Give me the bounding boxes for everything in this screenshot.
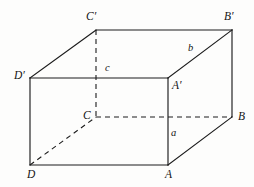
edge-dprime-cprime: [30, 30, 96, 78]
vertex-label-a: A: [165, 169, 172, 181]
vertex-label-a-prime: A′: [172, 80, 182, 92]
geometry-figure: C′ B′ D′ A′ C B D A a b c: [0, 0, 254, 187]
vertex-label-b: B: [238, 111, 245, 123]
cuboid-drawing: [0, 0, 254, 187]
edge-label-a: a: [171, 128, 176, 139]
edge-a-b: [168, 117, 232, 165]
edge-label-c: c: [105, 63, 110, 74]
edge-label-b: b: [188, 43, 193, 54]
hidden-edge-d-c: [30, 117, 96, 165]
edge-aprime-bprime: [168, 30, 232, 78]
vertex-label-c: C: [83, 110, 91, 122]
vertex-label-d: D: [27, 169, 35, 181]
vertex-label-c-prime: C′: [86, 11, 96, 23]
vertex-label-b-prime: B′: [224, 11, 234, 23]
vertex-label-d-prime: D′: [14, 70, 25, 82]
